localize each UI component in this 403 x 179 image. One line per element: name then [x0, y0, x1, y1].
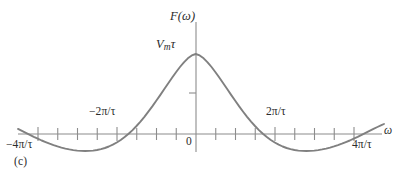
sinc-curve — [18, 54, 384, 151]
fourier-transform-plot — [0, 0, 403, 179]
x-tick-label-pos-two-pi-over-tau: 2π/τ — [266, 106, 286, 118]
x-tick-label-pos-four-pi-over-tau: 4π/τ — [352, 139, 372, 151]
x-tick-label-neg-four-pi-over-tau: −4π/τ — [6, 139, 32, 151]
x-axis-label: ω — [384, 125, 392, 137]
y-axis-label: F(ω) — [170, 10, 195, 23]
peak-value-tail: τ — [171, 37, 176, 51]
peak-value-base: V — [156, 37, 164, 51]
peak-value-subscript: m — [164, 42, 171, 52]
panel-label: (c) — [14, 156, 27, 168]
figure-panel-c: F(ω) Vmτ −2π/τ 2π/τ −4π/τ 4π/τ 0 ω (c) — [0, 0, 403, 179]
peak-value-label: Vmτ — [156, 38, 175, 53]
x-tick-label-neg-two-pi-over-tau: −2π/τ — [89, 106, 115, 118]
origin-label: 0 — [186, 136, 192, 148]
